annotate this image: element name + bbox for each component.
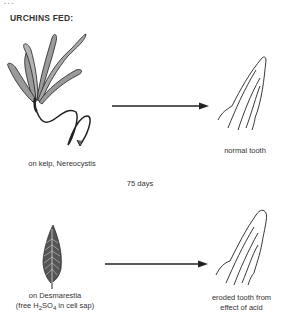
eroded-tooth-label-line2: effect of acid [200,303,283,312]
duration-label: 75 days [120,179,160,188]
eroded-tooth-label-line1: eroded tooth from [200,293,283,302]
label-text: in cell sap) [56,301,94,310]
eroded-tooth-icon [210,203,280,293]
kelp-nereocystis-icon [0,20,110,150]
desmarestia-label-line2: (free H2SO4 in cell sap) [0,301,110,310]
arrow-right-icon [111,101,211,111]
desmarestia-label-line1: on Desmarestia [5,291,105,300]
label-text: (free H [16,301,39,310]
desmarestia-icon [27,221,77,291]
normal-tooth-label: normal tooth [210,146,280,155]
kelp-label: on kelp, Nereocystis [12,159,112,168]
arrow-right-icon [104,259,210,269]
cut-off-caption: … [4,0,214,4]
label-text: SO [42,301,53,310]
normal-tooth-icon [210,50,280,140]
